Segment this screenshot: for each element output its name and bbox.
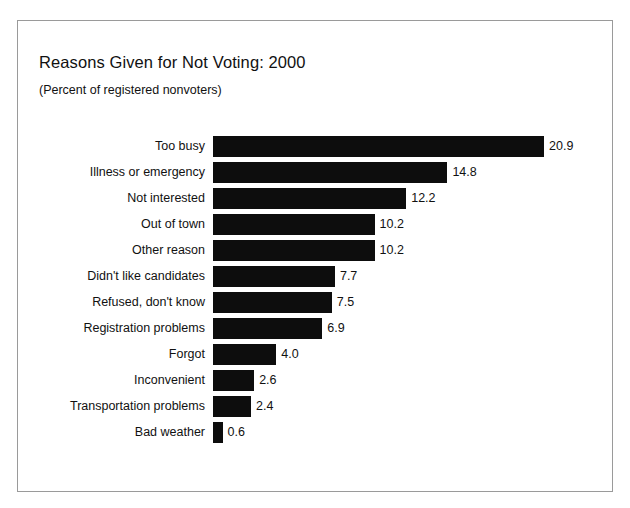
bar	[213, 240, 375, 261]
bar-category-label: Other reason	[132, 237, 205, 263]
bar	[213, 370, 254, 391]
bar	[213, 422, 223, 443]
bar-container: 7.7	[213, 263, 357, 289]
chart-frame: Reasons Given for Not Voting: 2000 (Perc…	[17, 20, 613, 492]
bar-category-label: Out of town	[141, 211, 205, 237]
bar-category-label: Didn't like candidates	[87, 263, 205, 289]
bar-category-label: Illness or emergency	[90, 159, 205, 185]
bar-container: 20.9	[213, 133, 573, 159]
bar	[213, 162, 447, 183]
bar-category-label: Inconvenient	[134, 367, 205, 393]
bar-row: Out of town10.2	[18, 211, 614, 237]
bar-category-label: Refused, don't know	[92, 289, 205, 315]
bar-category-label: Too busy	[155, 133, 205, 159]
bar-row: Too busy20.9	[18, 133, 614, 159]
bar-container: 14.8	[213, 159, 477, 185]
bar-row: Forgot4.0	[18, 341, 614, 367]
bar-row: Refused, don't know7.5	[18, 289, 614, 315]
bar-container: 0.6	[213, 419, 245, 445]
bar-row: Inconvenient2.6	[18, 367, 614, 393]
bar-row: Registration problems6.9	[18, 315, 614, 341]
bar	[213, 136, 544, 157]
bar	[213, 344, 276, 365]
bar-category-label: Transportation problems	[70, 393, 205, 419]
bar-value-label: 0.6	[228, 422, 245, 443]
bar-category-label: Not interested	[127, 185, 205, 211]
bar-row: Not interested12.2	[18, 185, 614, 211]
chart-subtitle: (Percent of registered nonvoters)	[39, 83, 222, 97]
bar-value-label: 6.9	[327, 318, 344, 339]
bar-category-label: Registration problems	[83, 315, 205, 341]
bar-value-label: 2.4	[256, 396, 273, 417]
bar-container: 12.2	[213, 185, 436, 211]
bar-value-label: 10.2	[380, 214, 404, 235]
bar-container: 10.2	[213, 237, 404, 263]
bar-value-label: 4.0	[281, 344, 298, 365]
bar-row: Bad weather0.6	[18, 419, 614, 445]
bar-category-label: Forgot	[169, 341, 205, 367]
bar-value-label: 7.7	[340, 266, 357, 287]
bar-value-label: 10.2	[380, 240, 404, 261]
plot-area: Too busy20.9Illness or emergency14.8Not …	[18, 133, 614, 445]
bar-row: Didn't like candidates7.7	[18, 263, 614, 289]
bar	[213, 266, 335, 287]
bar-value-label: 7.5	[337, 292, 354, 313]
bar	[213, 188, 406, 209]
bar-value-label: 2.6	[259, 370, 276, 391]
bar-container: 2.6	[213, 367, 277, 393]
bar-value-label: 14.8	[452, 162, 476, 183]
bar-container: 10.2	[213, 211, 404, 237]
bar-row: Transportation problems2.4	[18, 393, 614, 419]
bar-row: Illness or emergency14.8	[18, 159, 614, 185]
bar	[213, 318, 322, 339]
bar	[213, 292, 332, 313]
bar-category-label: Bad weather	[135, 419, 205, 445]
bar-container: 7.5	[213, 289, 354, 315]
bar-value-label: 20.9	[549, 136, 573, 157]
bar	[213, 396, 251, 417]
bar	[213, 214, 375, 235]
chart-title: Reasons Given for Not Voting: 2000	[39, 53, 306, 72]
bar-row: Other reason10.2	[18, 237, 614, 263]
bar-value-label: 12.2	[411, 188, 435, 209]
bar-container: 2.4	[213, 393, 273, 419]
bar-container: 4.0	[213, 341, 299, 367]
bar-container: 6.9	[213, 315, 345, 341]
